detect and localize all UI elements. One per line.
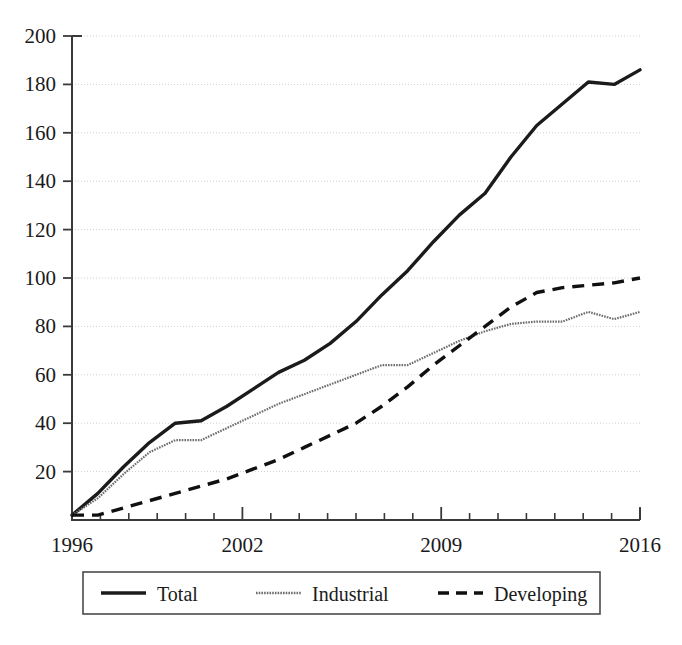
line-chart: 20406080100120140160180200 1996200220092… [0, 0, 682, 645]
ytick-label-80: 80 [35, 314, 56, 338]
ytick-label-140: 140 [25, 169, 57, 193]
xtick-label-2016: 2016 [619, 533, 661, 557]
ytick-label-40: 40 [35, 411, 56, 435]
ytick-label-20: 20 [35, 460, 56, 484]
chart-legend: Total Industrial Developing [83, 572, 600, 614]
y-axis-tick-labels: 20406080100120140160180200 [25, 24, 57, 484]
ytick-label-120: 120 [25, 218, 57, 242]
chart-figure: 20406080100120140160180200 1996200220092… [0, 0, 682, 645]
ytick-label-180: 180 [25, 72, 57, 96]
ytick-label-60: 60 [35, 363, 56, 387]
x-axis-tick-labels: 1996200220092016 [51, 533, 661, 557]
legend-label-developing: Developing [494, 583, 587, 606]
xtick-label-2002: 2002 [221, 533, 263, 557]
series-line-developing [72, 278, 640, 515]
ytick-label-100: 100 [25, 266, 57, 290]
gridlines-group [72, 36, 640, 472]
ytick-label-200: 200 [25, 24, 57, 48]
legend-label-industrial: Industrial [312, 583, 389, 605]
xtick-label-1996: 1996 [51, 533, 93, 557]
series-group [72, 70, 640, 515]
ytick-label-160: 160 [25, 121, 57, 145]
series-line-industrial [72, 312, 640, 515]
xtick-label-2009: 2009 [420, 533, 462, 557]
legend-label-total: Total [157, 583, 198, 605]
